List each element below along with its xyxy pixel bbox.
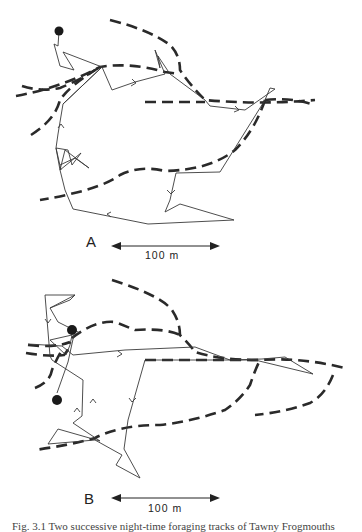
arrow-right-icon <box>210 494 220 502</box>
panel-b-map <box>0 260 362 527</box>
panel-a-track <box>54 31 275 224</box>
arrow-down-icon <box>167 190 175 194</box>
arrow-down-icon <box>45 319 51 323</box>
roost-marker <box>55 27 64 36</box>
roost-marker-start <box>67 325 77 335</box>
arrow-left-icon <box>111 494 121 502</box>
scale-bar-label-a: 100 m <box>145 249 179 261</box>
panel-a-map <box>0 0 362 260</box>
roost-marker-end <box>52 395 62 405</box>
arrow-up-icon <box>74 408 80 412</box>
arrow-right-icon <box>210 242 220 250</box>
arrow-right-icon <box>117 351 122 357</box>
scale-bar-label-b: 100 m <box>148 502 182 514</box>
arrow-down-icon <box>129 398 136 402</box>
panel-b-track <box>28 295 313 478</box>
arrow-left-icon <box>111 242 121 250</box>
panel-b-boundaries <box>26 280 345 450</box>
panel-label-a: A <box>86 233 96 250</box>
figure-caption: Fig. 3.1 Two successive night-time forag… <box>12 520 335 532</box>
panel-label-b: B <box>84 490 94 507</box>
arrow-up-icon <box>90 399 96 403</box>
panel-b-scale-bar <box>111 494 220 502</box>
